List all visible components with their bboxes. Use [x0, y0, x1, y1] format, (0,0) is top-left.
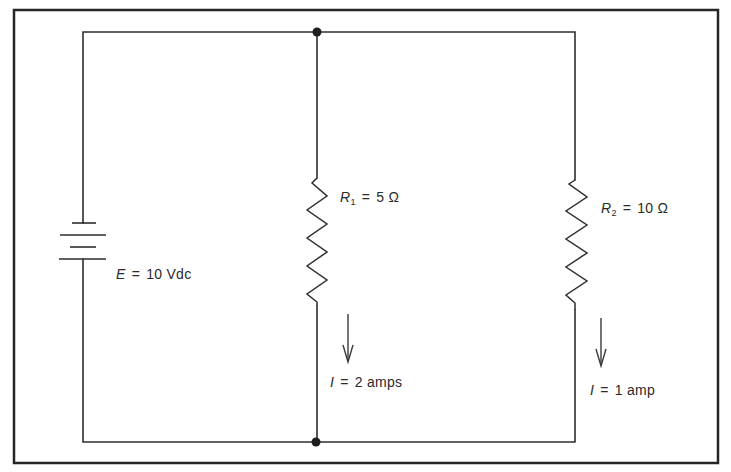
- current-2-symbol: I: [590, 382, 594, 398]
- current-1-equals: =: [340, 374, 348, 390]
- current-1-value: 2 amps: [355, 374, 403, 390]
- resistor-r1-label: R1=5 Ω: [340, 189, 399, 207]
- r2-subscript: 2: [611, 208, 616, 218]
- battery-icon: [59, 223, 106, 259]
- circuit-diagram: E=10 Vdc R1=5 Ω R2=10 Ω I=2 amps I=1 amp: [0, 0, 731, 472]
- bottom-rail-wire: [83, 259, 575, 442]
- source-label: E=10 Vdc: [116, 266, 192, 282]
- current-1-label: I=2 amps: [330, 374, 402, 390]
- r2-symbol: R: [601, 200, 611, 216]
- resistor-r2-label: R2=10 Ω: [601, 200, 668, 218]
- resistor-r2-icon: [566, 180, 587, 310]
- current-arrow-2-icon: [596, 318, 606, 366]
- current-2-equals: =: [600, 382, 608, 398]
- current-arrow-1-icon: [343, 314, 353, 362]
- source-equals: =: [132, 266, 140, 282]
- top-rail-wire: [83, 32, 575, 223]
- source-value: 10 Vdc: [146, 266, 191, 282]
- r2-value: 10 Ω: [637, 200, 668, 216]
- r1-value: 5 Ω: [376, 189, 399, 205]
- r1-equals: =: [362, 189, 370, 205]
- circuit-schematic: [0, 0, 731, 472]
- r1-subscript: 1: [350, 197, 355, 207]
- current-2-value: 1 amp: [615, 382, 655, 398]
- r1-symbol: R: [340, 189, 350, 205]
- junction-node-bottom: [312, 438, 321, 447]
- current-2-label: I=1 amp: [590, 382, 655, 398]
- resistor-r1-icon: [307, 178, 327, 306]
- r2-equals: =: [623, 200, 631, 216]
- current-1-symbol: I: [330, 374, 334, 390]
- junction-node-top: [313, 28, 322, 37]
- source-symbol: E: [116, 266, 126, 282]
